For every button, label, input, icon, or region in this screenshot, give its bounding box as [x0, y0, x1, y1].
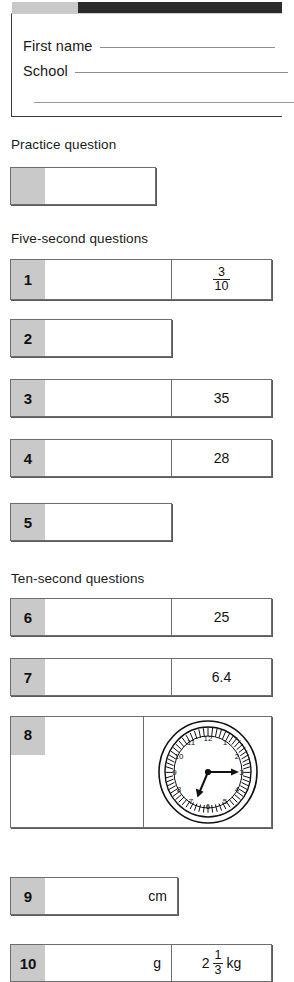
question-row[interactable]: 9 cm: [10, 877, 178, 915]
answer-input[interactable]: [45, 320, 171, 356]
question-number: 10: [11, 945, 45, 981]
question-row[interactable]: 1 3 10: [10, 259, 272, 300]
clock-centre-pin: [204, 769, 210, 775]
pupil-details-form: First name School: [11, 13, 282, 117]
answer-input[interactable]: [45, 504, 171, 540]
mixed-unit: kg: [226, 955, 241, 971]
practice-question-number: [11, 168, 45, 204]
question-given-value: 1 2 3 4 5 6 7 8 9 10 11 12: [143, 717, 271, 827]
fraction-numerator: 3: [216, 266, 227, 279]
clock-hour-label-10: 10: [174, 752, 183, 761]
question-number: 1: [11, 260, 45, 299]
question-given-value: 2 1 3 kg: [171, 945, 271, 981]
school-input[interactable]: [75, 72, 288, 73]
question-row[interactable]: 5: [10, 503, 172, 541]
clock-hour-label-12: 12: [203, 734, 212, 743]
clock-hour-label-7: 7: [188, 797, 193, 806]
question-row[interactable]: 8: [10, 716, 272, 828]
question-row[interactable]: 4 28: [10, 439, 272, 477]
top-bar-light-segment: [12, 2, 78, 13]
first-name-label: First name: [23, 38, 93, 54]
answer-input[interactable]: [45, 659, 171, 695]
question-given-value: 35: [171, 380, 271, 416]
fraction-numerator: 1: [213, 949, 224, 962]
question-given-value: 25: [171, 599, 271, 635]
answer-input[interactable]: cm: [45, 878, 177, 914]
first-name-row: First name: [23, 38, 275, 54]
fraction-denominator: 10: [213, 279, 231, 293]
analog-clock-icon: 1 2 3 4 5 6 7 8 9 10 11 12: [149, 718, 267, 826]
clock-hour-label-5: 5: [222, 797, 227, 806]
fraction: 1 3: [213, 949, 224, 976]
answer-input[interactable]: [45, 440, 171, 476]
fraction: 3 10: [213, 266, 231, 293]
practice-question-row[interactable]: [10, 167, 156, 205]
clock-hour-label-11: 11: [186, 738, 195, 747]
answer-input[interactable]: [45, 260, 171, 299]
mixed-whole-part: 2: [202, 955, 210, 971]
clock-hour-label-8: 8: [176, 785, 181, 794]
question-number: 3: [11, 380, 45, 416]
question-given-value: 28: [171, 440, 271, 476]
answer-input[interactable]: [45, 380, 171, 416]
top-bar-dark-segment: [78, 2, 282, 13]
question-given-value: 6.4: [171, 659, 271, 695]
five-second-questions-heading: Five-second questions: [11, 231, 148, 246]
clock-hour-label-1: 1: [222, 738, 227, 747]
question-row[interactable]: 10 g 2 1 3 kg: [10, 944, 272, 982]
question-row[interactable]: 3 35: [10, 379, 272, 417]
first-name-input[interactable]: [100, 47, 275, 48]
question-number: 8: [11, 717, 45, 755]
question-given-value: 3 10: [171, 260, 271, 299]
question-number: 7: [11, 659, 45, 695]
school-row: School: [23, 63, 288, 79]
question-number: 9: [11, 878, 45, 914]
question-number: 2: [11, 320, 45, 356]
practice-question-heading: Practice question: [11, 137, 116, 152]
extra-blank-line-input[interactable]: [34, 102, 294, 103]
question-number: 5: [11, 504, 45, 540]
answer-input[interactable]: [45, 717, 143, 827]
question-row[interactable]: 2: [10, 319, 172, 357]
top-colour-bar: [12, 2, 282, 13]
clock-hour-label-9: 9: [172, 768, 177, 777]
clock-hour-label-2: 2: [234, 752, 239, 761]
practice-answer-input[interactable]: [45, 168, 155, 204]
answer-input[interactable]: g: [45, 945, 171, 981]
question-row[interactable]: 7 6.4: [10, 658, 272, 696]
answer-input[interactable]: [45, 599, 171, 635]
school-label: School: [23, 63, 68, 79]
clock-hour-label-6: 6: [205, 802, 210, 811]
question-row[interactable]: 6 25: [10, 598, 272, 636]
question-number: 4: [11, 440, 45, 476]
fraction-denominator: 3: [213, 963, 224, 977]
clock-hour-label-4: 4: [234, 785, 239, 794]
clock-hour-label-3: 3: [239, 768, 244, 777]
mixed-number: 2 1 3 kg: [202, 949, 242, 976]
question-number: 6: [11, 599, 45, 635]
ten-second-questions-heading: Ten-second questions: [11, 571, 144, 586]
